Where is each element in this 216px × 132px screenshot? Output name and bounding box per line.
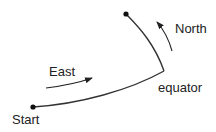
east-arrow-icon <box>46 78 92 88</box>
diagram-canvas: Start East North equator <box>0 0 216 132</box>
start-label: Start <box>12 113 39 126</box>
start-point <box>30 104 35 109</box>
equator-label: equator <box>158 81 202 94</box>
meridian-path <box>126 14 164 71</box>
end-point <box>123 11 128 16</box>
east-label: East <box>49 65 75 78</box>
north-arrow-icon <box>157 22 172 51</box>
north-label: North <box>175 22 207 35</box>
